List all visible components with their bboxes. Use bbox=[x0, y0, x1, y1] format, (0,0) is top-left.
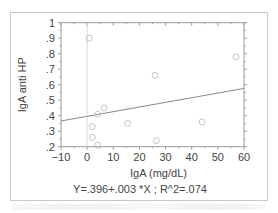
regression-equation: Y=.396+.003 *X ; R^2=.074 bbox=[73, 183, 207, 195]
x-tick-label: 40 bbox=[186, 151, 198, 163]
regression-line bbox=[61, 88, 244, 121]
x-tick-label: 20 bbox=[133, 151, 145, 163]
scatter-plot: −100102030405060.2.3.4.5.6.7.8.91IgA (mg… bbox=[0, 0, 278, 213]
y-tick-label: .4 bbox=[46, 110, 55, 122]
y-tick-label: 1 bbox=[49, 17, 55, 29]
y-tick-label: .7 bbox=[46, 63, 55, 75]
y-tick-label: .9 bbox=[46, 32, 55, 44]
data-point-marker bbox=[101, 105, 107, 111]
x-tick-label: 0 bbox=[84, 151, 90, 163]
x-tick-label: 30 bbox=[159, 151, 171, 163]
data-point-marker bbox=[153, 138, 159, 144]
y-axis-label: IgA anti HP bbox=[16, 57, 28, 112]
x-tick-label: 10 bbox=[107, 151, 119, 163]
cropped-caption-text bbox=[12, 204, 266, 210]
y-tick-label: .3 bbox=[46, 125, 55, 137]
y-tick-label: .8 bbox=[46, 48, 55, 60]
data-point-marker bbox=[152, 72, 158, 78]
x-tick-label: 50 bbox=[212, 151, 224, 163]
data-point-marker bbox=[95, 142, 101, 148]
data-point-marker bbox=[125, 120, 131, 126]
data-point-marker bbox=[89, 124, 95, 130]
y-tick-label: .2 bbox=[46, 141, 55, 153]
y-tick-label: .6 bbox=[46, 79, 55, 91]
y-tick-label: .5 bbox=[46, 94, 55, 106]
data-point-marker bbox=[233, 54, 239, 60]
data-point-marker bbox=[199, 119, 205, 125]
x-axis-label: IgA (mg/dL) bbox=[130, 167, 187, 179]
data-point-marker bbox=[89, 134, 95, 140]
x-tick-label: 60 bbox=[238, 151, 250, 163]
